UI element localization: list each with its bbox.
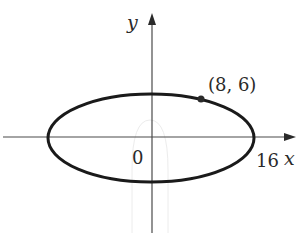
point-marker bbox=[198, 96, 205, 103]
x-axis-label: x bbox=[284, 147, 295, 169]
y-axis-label: y bbox=[126, 11, 138, 33]
ellipse-diagram: y (8, 6) 0 16 x bbox=[0, 0, 296, 233]
x-intercept-label: 16 bbox=[256, 150, 279, 171]
point-label: (8, 6) bbox=[208, 74, 256, 95]
y-axis-arrow-icon bbox=[148, 13, 156, 25]
x-axis-arrow-icon bbox=[284, 133, 296, 141]
origin-label: 0 bbox=[132, 147, 143, 168]
ellipse-curve bbox=[48, 94, 254, 182]
